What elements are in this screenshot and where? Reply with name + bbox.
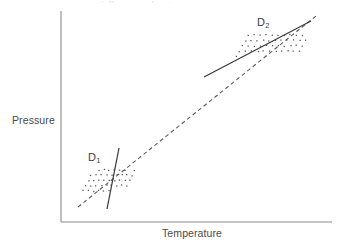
data-point: [268, 40, 269, 41]
data-point: [90, 175, 91, 176]
data-point: [98, 180, 99, 181]
data-point: [287, 50, 288, 51]
d2-within-regression-line: [204, 21, 311, 77]
data-point: [126, 185, 127, 186]
data-point: [277, 35, 278, 36]
data-cluster-d1: [82, 169, 135, 192]
data-point: [131, 175, 132, 176]
cluster-label-d2-base: D: [257, 16, 265, 28]
data-point: [108, 190, 109, 191]
data-point: [299, 51, 300, 52]
data-point: [116, 185, 117, 186]
data-point: [125, 180, 126, 181]
data-point: [98, 170, 99, 171]
pooled-regression-line-group: [78, 16, 316, 207]
data-point: [259, 34, 260, 35]
data-point: [272, 35, 273, 36]
data-point: [106, 174, 107, 175]
data-point: [119, 179, 120, 180]
data-point: [254, 46, 255, 47]
data-point: [281, 50, 282, 51]
data-point: [263, 50, 264, 51]
data-point: [88, 190, 89, 191]
data-point: [103, 180, 104, 181]
d1-within-regression-line: [107, 148, 119, 209]
data-point: [95, 174, 96, 175]
data-point: [101, 185, 102, 186]
data-point: [293, 50, 294, 51]
data-point: [106, 184, 107, 185]
data-point: [280, 39, 281, 40]
data-point: [90, 185, 91, 186]
cluster-label-d1-subscript: 1: [96, 156, 100, 165]
data-point: [272, 45, 273, 46]
data-point: [126, 174, 127, 175]
data-point: [265, 34, 266, 35]
data-point: [296, 35, 297, 36]
data-point: [276, 51, 277, 52]
data-point: [250, 40, 251, 41]
data-point: [293, 39, 294, 40]
data-point: [286, 39, 287, 40]
cluster-label-d2-subscript: 2: [265, 21, 269, 30]
data-point: [254, 34, 255, 35]
data-point: [256, 40, 257, 41]
data-point: [305, 40, 306, 41]
data-point: [239, 51, 240, 52]
axes-group: [61, 11, 332, 222]
data-point: [302, 35, 303, 36]
data-point: [111, 175, 112, 176]
data-point: [85, 185, 86, 186]
data-point: [88, 180, 89, 181]
data-point: [236, 56, 237, 57]
data-point: [299, 40, 300, 41]
data-point: [93, 191, 94, 192]
cluster-label-d1-base: D: [88, 151, 96, 163]
data-point: [124, 170, 125, 171]
cluster-label-d1: D1: [88, 151, 100, 163]
data-point: [242, 45, 243, 46]
scatter-plot-figure: partially cropped text Pressure Temperat…: [0, 0, 342, 251]
data-point: [82, 190, 83, 191]
d1-within-regression-line-group: [107, 148, 119, 209]
cluster-label-d2: D2: [257, 16, 269, 28]
pooled-regression-line: [78, 16, 316, 207]
d2-within-regression-line-group: [204, 21, 311, 77]
data-point: [284, 46, 285, 47]
data-point: [134, 170, 135, 171]
data-point: [104, 169, 105, 170]
data-cluster-d2: [236, 34, 306, 57]
data-point: [121, 184, 122, 185]
data-point: [98, 190, 99, 191]
data-point: [248, 35, 249, 36]
data-point: [302, 46, 303, 47]
data-point: [245, 51, 246, 52]
data-point: [108, 170, 109, 171]
data-point: [109, 180, 110, 181]
data-point: [248, 45, 249, 46]
data-point: [95, 185, 96, 186]
data-point: [269, 50, 270, 51]
data-point: [245, 40, 246, 41]
data-point: [263, 40, 264, 41]
data-point: [129, 180, 130, 181]
data-point: [122, 174, 123, 175]
y-axis-label: Pressure: [12, 114, 55, 126]
data-point: [289, 34, 290, 35]
data-point: [278, 45, 279, 46]
data-point: [93, 180, 94, 181]
data-point: [100, 174, 101, 175]
x-axis-label: Temperature: [162, 227, 222, 239]
data-point: [119, 170, 120, 171]
data-point: [117, 174, 118, 175]
data-point: [290, 45, 291, 46]
data-point: [114, 180, 115, 181]
data-point: [103, 190, 104, 191]
data-point: [296, 45, 297, 46]
data-point: [258, 51, 259, 52]
